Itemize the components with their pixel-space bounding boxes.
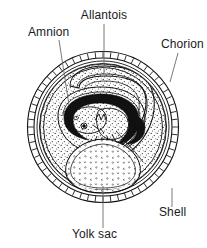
label-shell: Shell [159, 205, 186, 219]
leader-chorion [170, 53, 178, 82]
amniotic-egg-diagram: Allantois Amnion Chorion Shell Yolk sac [0, 0, 207, 248]
label-yolk-sac: Yolk sac [72, 227, 117, 241]
label-amnion: Amnion [28, 25, 69, 39]
figure-canvas: Allantois Amnion Chorion Shell Yolk sac [0, 0, 207, 248]
label-chorion: Chorion [161, 37, 204, 51]
label-allantois: Allantois [81, 8, 127, 22]
